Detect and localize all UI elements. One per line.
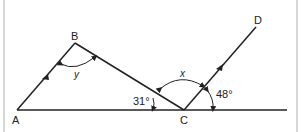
angle-31-arc	[153, 98, 154, 109]
point-b-label: B	[71, 30, 78, 42]
point-c-label: C	[180, 114, 188, 126]
angle-48-arc	[207, 90, 213, 109]
angle-y-label: y	[73, 69, 80, 80]
geometry-diagram: A B C D y x 31° 48°	[0, 0, 301, 132]
point-a-label: A	[12, 114, 20, 126]
angle-x-label: x	[179, 68, 186, 79]
angle-x-arc	[160, 80, 203, 89]
angle-y-arc	[61, 57, 95, 67]
parallel-arrow-ab-icon	[42, 74, 49, 80]
line-bc	[75, 43, 184, 110]
angle-31-label: 31°	[133, 95, 150, 107]
parallel-arrow-cd-icon	[216, 64, 223, 71]
point-d-label: D	[254, 14, 262, 26]
angle-48-label: 48°	[216, 88, 233, 100]
